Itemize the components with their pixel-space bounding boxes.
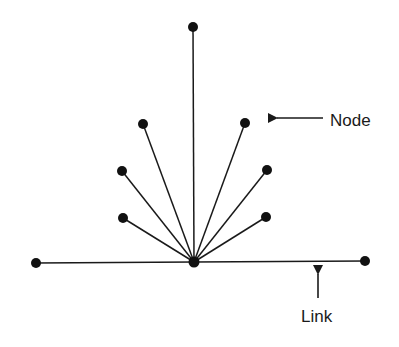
node-n-upper-left [138,119,148,129]
link-n-lower-right [194,217,266,262]
links-group [36,27,365,263]
node-n-upper-right [240,118,250,128]
node-label: Node [330,111,371,130]
node-annotation: Node [277,111,371,130]
node-n-far-right [360,256,370,266]
hub-node [189,257,200,268]
link-n-upper-left [143,124,194,262]
link-n-far-left [36,262,194,263]
node-n-top [188,22,198,32]
link-n-mid-left [122,171,194,262]
link-n-lower-left [123,218,194,262]
star-network-diagram: Node Link [0,0,399,347]
link-n-mid-right [194,170,267,262]
node-n-far-left [31,258,41,268]
link-n-far-right [194,261,365,262]
link-n-upper-right [194,123,245,262]
link-annotation: Link [301,274,333,326]
link-n-top [193,27,194,262]
link-label: Link [301,307,333,326]
nodes-group [31,22,370,268]
node-n-mid-right [262,165,272,175]
node-n-lower-right [261,212,271,222]
node-n-mid-left [117,166,127,176]
node-n-lower-left [118,213,128,223]
